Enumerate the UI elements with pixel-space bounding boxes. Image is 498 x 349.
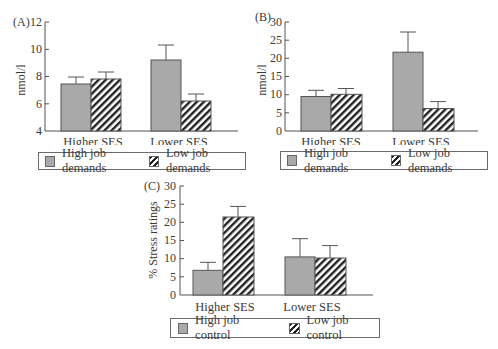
bar-a-lower-high — [151, 60, 181, 131]
panel-label-c: (C) — [144, 179, 160, 193]
y-tick-a-12: 12 — [30, 15, 42, 29]
y-tick-c-15: 15 — [164, 233, 176, 247]
y-tick-c-25: 25 — [164, 197, 176, 211]
panel-label-b: (B) — [255, 10, 271, 24]
bar-c-higher-low — [223, 217, 254, 295]
y-tick-a-10: 10 — [30, 42, 42, 56]
bar-a-lower-low — [181, 101, 211, 131]
y-axis-label-a: nmol/l — [14, 64, 28, 96]
y-tick-b-25: 25 — [270, 33, 282, 47]
y-axis-label-b: nmol/l — [255, 64, 269, 96]
y-tick-a-8: 8 — [36, 69, 42, 83]
legend-label: Low job demands — [408, 146, 487, 176]
legend-c: High job control Low job control — [170, 318, 380, 338]
legend-b: High job demands Low job demands — [280, 151, 488, 170]
x-label-b-higher: Higher SES — [301, 135, 360, 145]
bar-a-higher-high — [61, 84, 91, 131]
x-label-b-lower: Lower SES — [392, 135, 449, 145]
hatched-swatch-icon — [391, 155, 401, 166]
bar-c-lower-low — [315, 258, 346, 295]
chart-panel-c: (C) % Stress ratings 30 25 20 15 10 5 0 … — [130, 170, 380, 315]
y-tick-c-0: 0 — [170, 288, 176, 302]
y-tick-b-0: 0 — [276, 124, 282, 138]
y-tick-c-10: 10 — [164, 251, 176, 265]
bar-b-lower-high — [393, 52, 423, 131]
x-label-a-higher: Higher SES — [63, 135, 122, 145]
bar-a-higher-low — [91, 79, 121, 131]
bar-b-lower-low — [423, 109, 454, 132]
chart-panel-a: (A) nmol/l 12 10 8 6 4 Higher SES Lower … — [0, 0, 249, 145]
legend-item-high-demands-a: High job demands — [45, 146, 143, 176]
bar-c-lower-high — [285, 257, 315, 295]
legend-a: High job demands Low job demands — [38, 152, 246, 170]
legend-item-low-control: Low job control — [289, 313, 379, 343]
legend-label: High job control — [195, 313, 269, 343]
y-tick-c-30: 30 — [164, 179, 176, 193]
x-label-c-lower: Lower SES — [283, 300, 340, 314]
y-tick-b-15: 15 — [270, 69, 282, 83]
y-tick-b-20: 20 — [270, 51, 282, 65]
x-label-c-higher: Higher SES — [195, 300, 254, 314]
y-tick-a-6: 6 — [36, 97, 42, 111]
y-tick-b-10: 10 — [270, 87, 282, 101]
solid-swatch-icon — [178, 323, 188, 334]
hatched-swatch-icon — [149, 156, 159, 167]
solid-swatch-icon — [287, 155, 297, 166]
legend-label: Low job control — [307, 313, 379, 343]
y-tick-c-5: 5 — [170, 270, 176, 284]
chart-panel-b: (B) nmol/l 30 25 20 15 10 5 0 Higher SES… — [249, 0, 498, 145]
y-axis-label-c: % Stress ratings — [146, 201, 160, 279]
legend-item-low-demands-b: Low job demands — [391, 146, 487, 176]
solid-swatch-icon — [45, 156, 55, 167]
legend-item-high-control: High job control — [178, 313, 269, 343]
y-tick-b-30: 30 — [270, 15, 282, 29]
y-tick-a-4: 4 — [36, 124, 42, 138]
bar-b-higher-low — [331, 94, 362, 131]
bar-c-higher-high — [193, 270, 223, 295]
y-tick-b-5: 5 — [276, 106, 282, 120]
bar-b-higher-high — [301, 97, 331, 132]
panel-label-a: (A) — [13, 15, 30, 29]
y-tick-c-20: 20 — [164, 215, 176, 229]
hatched-swatch-icon — [289, 323, 299, 334]
x-label-a-lower: Lower SES — [150, 135, 207, 145]
